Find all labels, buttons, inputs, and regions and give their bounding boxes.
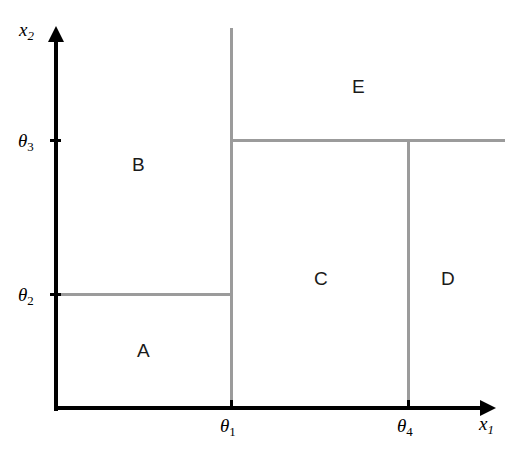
region-label-e: E xyxy=(352,77,365,96)
tick-theta1 xyxy=(230,400,233,410)
tick-label-theta4: θ4 xyxy=(397,416,413,439)
tick-label-theta2: θ2 xyxy=(18,285,34,308)
theta-symbol: θ xyxy=(18,284,27,305)
theta1-subscript: 1 xyxy=(229,424,235,439)
region-label-c: C xyxy=(314,269,328,288)
region-label-a: A xyxy=(137,341,150,360)
region-label-b: B xyxy=(132,155,145,174)
y-axis-line xyxy=(54,36,58,411)
theta-symbol: θ xyxy=(18,130,27,151)
split-line-theta3 xyxy=(230,139,505,142)
x-axis-subscript: 1 xyxy=(487,422,493,437)
x-axis-line xyxy=(54,406,484,410)
theta-symbol: θ xyxy=(220,415,229,436)
region-label-d: D xyxy=(441,269,455,288)
split-line-theta4 xyxy=(407,139,410,408)
theta-symbol: θ xyxy=(397,415,406,436)
tick-label-theta1: θ1 xyxy=(220,416,236,439)
tick-theta3 xyxy=(50,139,61,142)
y-axis-arrowhead xyxy=(48,26,64,42)
tick-theta2 xyxy=(50,293,61,296)
theta3-subscript: 3 xyxy=(27,139,33,154)
split-line-theta2 xyxy=(57,293,231,296)
x-axis-label: x1 xyxy=(479,414,494,437)
tick-theta4 xyxy=(407,400,410,410)
theta4-subscript: 4 xyxy=(406,424,412,439)
theta2-subscript: 2 xyxy=(27,293,33,308)
y-axis-subscript: 2 xyxy=(27,28,33,43)
y-axis-label: x2 xyxy=(19,20,34,43)
split-line-theta1 xyxy=(230,28,233,408)
partition-diagram: x2 x1 θ3 θ2 θ1 θ4 A B C D E xyxy=(0,0,514,463)
tick-label-theta3: θ3 xyxy=(18,131,34,154)
